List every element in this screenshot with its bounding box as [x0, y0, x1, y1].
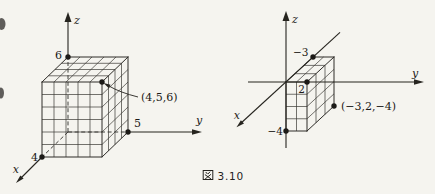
x-axis: [16, 157, 42, 183]
z-tick-label: −4: [268, 125, 284, 137]
x-tick-label: 4: [31, 151, 38, 164]
corner-point-dot: [331, 103, 336, 108]
y-axis: [128, 129, 202, 135]
y-axis-label: y: [195, 114, 203, 127]
box-grid: [286, 57, 334, 131]
figure-caption: 3.10: [203, 170, 244, 182]
x-tick-dot: [39, 154, 44, 159]
z-axis-label: z: [291, 13, 298, 26]
z-tick-label: 6: [55, 49, 62, 62]
x-axis: [237, 32, 341, 127]
corner-point-label: (4,5,6): [141, 91, 178, 104]
kanji-zu-glyph: [203, 171, 213, 180]
x-tick-dot: [310, 54, 315, 59]
x-axis-label: x: [234, 109, 241, 122]
z-axis-arrowhead-icon: [65, 12, 72, 22]
y-axis-label: y: [411, 67, 419, 80]
z-tick-dot: [283, 128, 288, 133]
y-tick-label: 5: [134, 117, 141, 130]
z-axis-label: z: [73, 14, 80, 27]
left-figure: z y x 6 5 4 (4,5,6): [13, 12, 203, 183]
scan-artifact: [0, 88, 4, 99]
right-figure: z y x −3 2 −4 (−3,2,−4): [234, 11, 424, 148]
box-grid: [42, 57, 128, 157]
y-tick-dot: [304, 79, 309, 84]
z-axis: [65, 12, 72, 57]
y-axis: [248, 79, 424, 85]
x-axis-label: x: [13, 163, 20, 176]
z-tick-dot: [65, 54, 70, 59]
scan-artifact: [0, 18, 6, 30]
z-axis-arrowhead-icon: [283, 11, 290, 21]
y-tick-dot: [125, 129, 130, 134]
y-axis-arrowhead-icon: [414, 79, 424, 85]
figure-3-10: z y x 6 5 4 (4,5,6) z y: [0, 0, 435, 194]
point-leader-line: [109, 86, 138, 97]
corner-point-label: (−3,2,−4): [341, 100, 396, 113]
corner-point-dot: [99, 79, 104, 84]
y-axis-arrowhead-icon: [192, 129, 202, 135]
x-tick-label: −3: [293, 46, 308, 58]
caption-number: 3.10: [218, 170, 245, 182]
y-tick-label: 2: [298, 83, 305, 95]
